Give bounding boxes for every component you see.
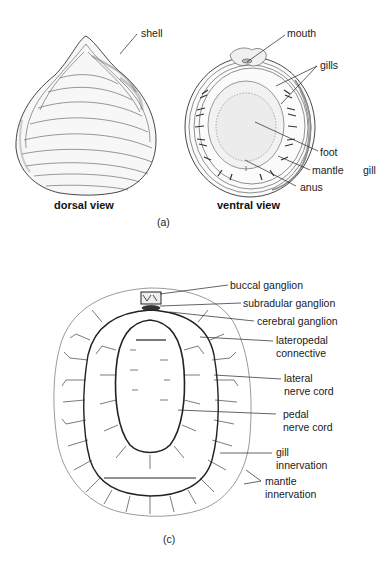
label-mantle: mantle bbox=[312, 164, 344, 176]
label-subradular-ganglion: subradular ganglion bbox=[243, 297, 335, 309]
label-buccal-ganglion: buccal ganglion bbox=[230, 279, 303, 291]
ventral-view-drawing bbox=[185, 48, 315, 197]
nervous-system-drawing bbox=[54, 288, 251, 516]
label-anus: anus bbox=[300, 181, 323, 193]
label-mantle-innervation: mantle innervation bbox=[265, 475, 316, 500]
dorsal-shell-drawing bbox=[16, 36, 156, 195]
label-pedal-nerve-cord: pedal nerve cord bbox=[283, 408, 333, 433]
panel-label-c: (c) bbox=[163, 533, 175, 545]
panel-label-a: (a) bbox=[157, 216, 170, 228]
label-gills: gills bbox=[320, 59, 338, 71]
label-gill-innervation: gill innervation bbox=[276, 446, 327, 471]
label-shell: shell bbox=[141, 27, 163, 39]
label-lateropedal-connective: lateropedal connective bbox=[276, 334, 328, 359]
label-cerebral-ganglion: cerebral ganglion bbox=[257, 315, 338, 327]
caption-dorsal-view: dorsal view bbox=[54, 199, 114, 211]
label-lateral-nerve-cord: lateral nerve cord bbox=[284, 372, 334, 397]
label-foot: foot bbox=[320, 146, 338, 158]
caption-ventral-view: ventral view bbox=[217, 199, 280, 211]
diagram-artwork bbox=[0, 0, 378, 563]
shell-leader-line bbox=[120, 34, 137, 54]
label-mouth: mouth bbox=[287, 27, 316, 39]
label-gill: gill bbox=[363, 164, 376, 176]
